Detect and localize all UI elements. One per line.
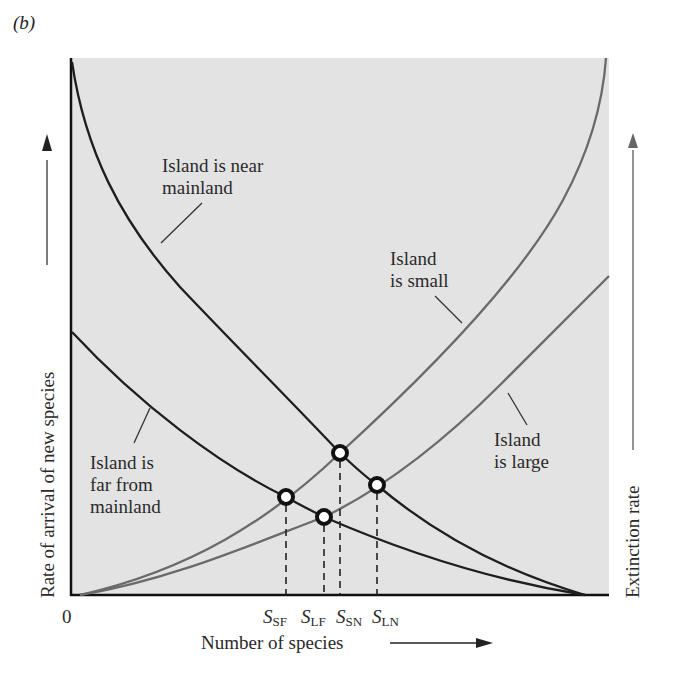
marker-s-sf bbox=[279, 490, 293, 504]
marker-s-sn bbox=[333, 446, 347, 460]
marker-s-ln bbox=[370, 478, 384, 492]
marker-s-lf bbox=[317, 510, 331, 524]
label-line: Island bbox=[390, 248, 449, 270]
label-island-large: Island is large bbox=[494, 429, 549, 473]
arrow-right-icon bbox=[476, 638, 493, 648]
label-island-small: Island is small bbox=[390, 248, 449, 292]
s-lf-label: SLF bbox=[301, 606, 326, 630]
label-line: is small bbox=[390, 270, 449, 292]
s-sn-label: SSN bbox=[336, 606, 362, 630]
label-near-mainland: Island is near mainland bbox=[162, 155, 263, 199]
y-axis-right-label: Extinction rate bbox=[622, 486, 644, 598]
origin-tick-label: 0 bbox=[62, 606, 72, 628]
s-symbol: S bbox=[263, 606, 273, 627]
s-subscript: LN bbox=[382, 614, 399, 629]
s-sf-label: SSF bbox=[263, 606, 287, 630]
label-line: far from bbox=[90, 474, 161, 496]
s-subscript: SF bbox=[273, 614, 287, 629]
arrow-up-icon bbox=[628, 133, 638, 148]
arrow-up-icon bbox=[42, 134, 52, 151]
label-line: mainland bbox=[90, 496, 161, 518]
label-line: mainland bbox=[162, 177, 263, 199]
label-far-from-mainland: Island is far from mainland bbox=[90, 452, 161, 518]
s-symbol: S bbox=[372, 606, 382, 627]
y-axis-left-label: Rate of arrival of new species bbox=[37, 372, 59, 598]
label-line: Island bbox=[494, 429, 549, 451]
s-symbol: S bbox=[301, 606, 311, 627]
s-subscript: LF bbox=[311, 614, 326, 629]
island-biogeography-chart bbox=[0, 0, 675, 682]
s-subscript: SN bbox=[346, 614, 363, 629]
label-line: is large bbox=[494, 451, 549, 473]
s-symbol: S bbox=[336, 606, 346, 627]
label-line: Island is near bbox=[162, 155, 263, 177]
label-line: Island is bbox=[90, 452, 161, 474]
s-ln-label: SLN bbox=[372, 606, 399, 630]
panel-label: (b) bbox=[13, 12, 35, 34]
x-axis-label: Number of species bbox=[201, 632, 343, 654]
